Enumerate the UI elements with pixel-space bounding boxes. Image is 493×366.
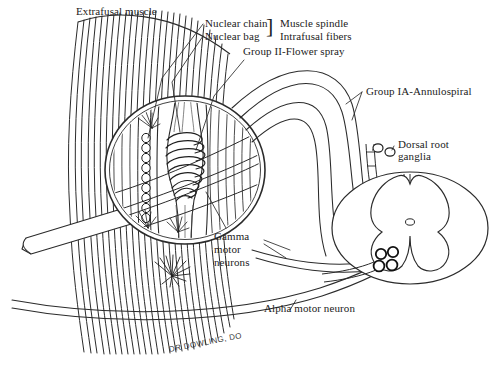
label-gamma-motor-neurons-line2: motor — [214, 243, 241, 256]
label-muscle-spindle: Muscle spindle — [280, 17, 348, 30]
label-nuclear-bag: Nuclear bag — [205, 30, 260, 43]
label-gamma-motor-neurons-line1: Gamma — [214, 230, 249, 243]
label-grouping-bracket: ] — [266, 15, 273, 37]
label-alpha-motor-neuron: Alpha motor neuron — [264, 302, 355, 315]
label-nuclear-chain: Nuclear chain — [205, 17, 268, 30]
label-group-ii-flower-spray: Group II-Flower spray — [243, 45, 345, 58]
label-dorsal-root-ganglia-line1: Dorsal root — [398, 138, 449, 151]
label-gamma-motor-neurons-line3: neurons — [214, 256, 250, 269]
label-group-ia-annulospiral: Group IA-Annulospiral — [366, 85, 472, 98]
label-intrafusal-fibers: Intrafusal fibers — [280, 30, 352, 43]
label-extrafusal-muscle: Extrafusal muscle — [76, 5, 157, 18]
label-dorsal-root-ganglia-line2: ganglia — [398, 150, 431, 163]
